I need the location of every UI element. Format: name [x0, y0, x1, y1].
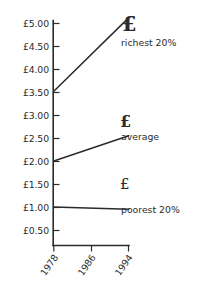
y-tick-label: £2.50: [23, 133, 49, 144]
y-tick-label: £3.50: [23, 87, 49, 98]
y-tick-label: £5.00: [23, 18, 49, 29]
series-label-richest: £ richest 20%: [121, 11, 176, 48]
pound-symbol-icon: £: [120, 175, 130, 193]
y-tick-label: £4.50: [23, 41, 49, 52]
x-axis-labels: 1978 1986 1994: [38, 252, 135, 278]
pound-symbol-icon: £: [120, 112, 131, 131]
series-label-poorest: £ poorest 20%: [120, 175, 180, 215]
x-axis-ticks: [54, 246, 129, 252]
line-chart: £5.00 £4.50 £4.00 £3.50 £3.00 £2.50 £2.0…: [0, 0, 200, 293]
series-line-average: [54, 136, 129, 161]
y-tick-label: £4.00: [23, 64, 49, 75]
y-tick-label: £0.50: [23, 225, 49, 236]
x-tick-label: 1978: [38, 252, 60, 278]
series-label-text: richest 20%: [121, 37, 176, 48]
series-label-average: £ average: [120, 112, 159, 142]
series-line-poorest-20: [54, 207, 129, 209]
y-tick-label: £1.50: [23, 179, 49, 190]
x-tick-label: 1986: [75, 252, 97, 278]
series-line-richest-20: [54, 18, 129, 92]
y-tick-label: £3.00: [23, 110, 49, 121]
x-tick-label: 1994: [112, 252, 134, 278]
y-tick-label: £1.00: [23, 202, 49, 213]
series-label-text: average: [121, 131, 159, 142]
y-axis-ticks: [53, 24, 59, 231]
y-axis-labels: £5.00 £4.50 £4.00 £3.50 £3.00 £2.50 £2.0…: [23, 18, 49, 236]
chart-canvas: £5.00 £4.50 £4.00 £3.50 £3.00 £2.50 £2.0…: [0, 0, 200, 293]
pound-symbol-icon: £: [122, 11, 137, 36]
series-label-text: poorest 20%: [121, 204, 180, 215]
y-tick-label: £2.00: [23, 156, 49, 167]
